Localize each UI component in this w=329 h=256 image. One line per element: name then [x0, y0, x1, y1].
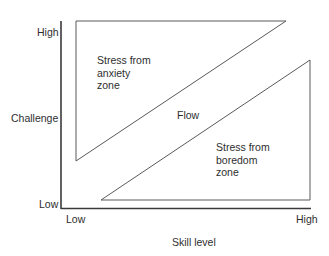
flow-zone-label: Flow: [177, 109, 199, 121]
x-axis-low-label: Low: [66, 213, 85, 225]
y-axis-title: Challenge: [11, 112, 58, 124]
flow-diagram: High Challenge Low Low High Skill level …: [0, 0, 329, 256]
anxiety-zone-line-2: anxiety: [97, 67, 151, 80]
boredom-zone-line-1: Stress from: [216, 141, 270, 154]
y-axis-low-label: Low: [39, 198, 58, 210]
diagram-canvas: [0, 0, 329, 256]
boredom-zone-label: Stress from boredom zone: [216, 141, 270, 179]
x-axis-title: Skill level: [172, 236, 216, 248]
anxiety-zone-line-1: Stress from: [97, 54, 151, 67]
boredom-zone-line-2: boredom: [216, 154, 270, 167]
boredom-zone-line-3: zone: [216, 166, 270, 179]
x-axis-high-label: High: [296, 213, 318, 225]
anxiety-zone-label: Stress from anxiety zone: [97, 54, 151, 92]
anxiety-zone-line-3: zone: [97, 79, 151, 92]
y-axis-high-label: High: [37, 26, 59, 38]
